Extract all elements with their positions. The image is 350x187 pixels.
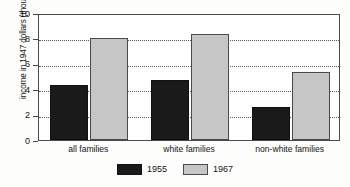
bar-series-layer [39,15,339,140]
bar-1967-non-white-families [292,72,330,140]
legend-swatch-1967 [183,164,208,175]
legend-item-1955: 1955 [117,164,167,175]
legend-label-1967: 1967 [213,165,233,174]
legend-item-1967: 1967 [183,164,233,175]
y-axis-tick-mark [33,141,38,142]
bar-1967-all-families [90,38,128,140]
legend-label-1955: 1955 [147,165,167,174]
bar-1955-non-white-families [252,107,290,140]
y-axis-tick-label: 2 [4,111,30,120]
chart-legend: 19551967 [0,164,350,175]
y-axis-tick-label: 6 [4,60,30,69]
bar-1955-all-families [50,85,88,140]
y-axis-tick-label: 0 [4,137,30,146]
bar-chart-figure: income in 1947 dollars (thousands) 02468… [0,0,350,187]
y-axis-tick-label: 4 [4,86,30,95]
y-axis-title-wrapper: income in 1947 dollars (thousands) [2,14,16,142]
y-axis-tick-label: 8 [4,35,30,44]
x-axis-label-non-white-families: non-white families [230,145,350,154]
legend-swatch-1955 [117,164,142,175]
bar-1967-white-families [191,34,229,140]
y-axis-tick-label: 10 [4,10,30,19]
bar-1955-white-families [151,80,189,140]
plot-area [38,14,340,141]
